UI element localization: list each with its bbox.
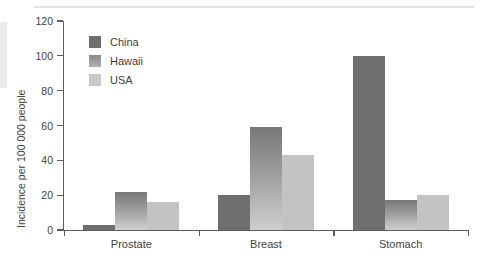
bar-prostate-usa: [147, 202, 179, 230]
x-axis-tick: [333, 231, 334, 236]
legend-item-hawaii: Hawaii: [89, 51, 143, 70]
y-axis-tick: [57, 55, 63, 56]
legend-item-usa: USA: [89, 70, 143, 89]
bar-stomach-usa: [417, 195, 449, 230]
legend-label: USA: [110, 74, 133, 86]
x-axis-category-label-breast: Breast: [250, 238, 282, 250]
legend-label: China: [110, 36, 139, 48]
x-axis-tick: [199, 231, 200, 236]
y-axis-tick: [57, 20, 63, 21]
x-axis-category-label-prostate: Prostate: [111, 238, 152, 250]
x-axis-category-label-stomach: Stomach: [379, 238, 422, 250]
y-axis-title: Incidence per 100 000 people: [16, 88, 27, 228]
legend-item-china: China: [89, 32, 143, 51]
bar-breast-hawaii: [250, 127, 282, 230]
y-axis-tick-label: 120: [13, 16, 53, 27]
y-axis-tick: [57, 90, 63, 91]
legend-swatch-usa: [89, 74, 101, 86]
chart-legend: ChinaHawaiiUSA: [89, 32, 143, 89]
legend-swatch-hawaii: [89, 55, 101, 67]
y-axis-tick: [57, 125, 63, 126]
legend-swatch-china: [89, 36, 101, 48]
grouped-bar-chart: 020406080100120 Incidence per 100 000 pe…: [0, 0, 481, 258]
y-axis-tick: [57, 160, 63, 161]
x-axis-tick: [64, 231, 65, 236]
y-axis-tick: [57, 195, 63, 196]
x-axis-tick: [468, 231, 469, 236]
bar-stomach-hawaii: [385, 200, 417, 230]
bar-prostate-china: [83, 225, 115, 230]
x-axis-line: [63, 230, 469, 231]
legend-label: Hawaii: [110, 55, 143, 67]
y-axis-tick-label: 100: [13, 51, 53, 62]
bar-stomach-china: [353, 56, 385, 230]
y-axis-tick: [57, 229, 63, 230]
bar-breast-usa: [282, 155, 314, 230]
bar-breast-china: [218, 195, 250, 230]
bar-prostate-hawaii: [115, 192, 147, 230]
